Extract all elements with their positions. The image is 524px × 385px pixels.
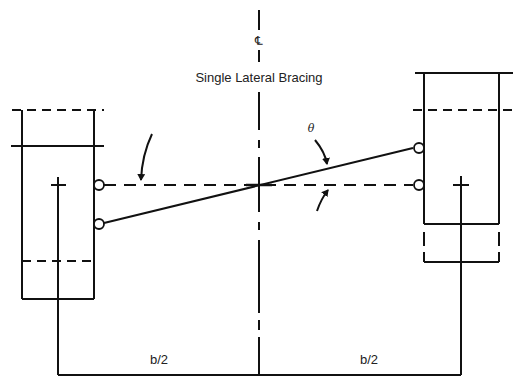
lower-angle-arrow	[317, 190, 328, 211]
dimension-left-label: b/2	[150, 352, 168, 367]
left-column	[11, 110, 104, 375]
centerline-symbol: ℄	[254, 34, 263, 48]
left-lower-pin	[94, 219, 104, 229]
right-column	[413, 73, 513, 375]
right-lower-pin	[414, 180, 424, 190]
dimension-right-label: b/2	[360, 352, 378, 367]
left-angle-arrow	[141, 134, 152, 180]
angle-label: θ	[308, 122, 315, 135]
diagram-title: Single Lateral Bracing	[195, 70, 322, 85]
right-upper-pin	[414, 143, 424, 153]
lateral-bracing-diagram: ℄ Single Lateral Bracing θ b/2 b/2	[0, 0, 524, 385]
left-upper-pin	[94, 180, 104, 190]
upper-angle-arrow	[315, 140, 327, 164]
